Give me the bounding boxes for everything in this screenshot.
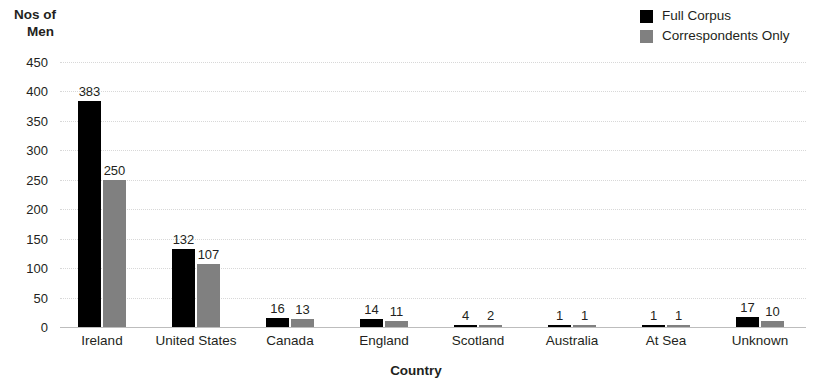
legend-label: Correspondents Only <box>662 29 790 43</box>
bar-value-label: 10 <box>755 305 790 318</box>
bar-value-label: 11 <box>379 305 414 318</box>
legend-item-1[interactable]: Full Corpus <box>640 6 790 26</box>
y-tick-label: 200 <box>0 203 48 216</box>
bar-unknown-full-corpus[interactable] <box>736 317 759 327</box>
gridline <box>60 180 806 182</box>
bar-value-label: 107 <box>191 248 226 261</box>
legend-item-2[interactable]: Correspondents Only <box>640 26 790 46</box>
bar-value-label: 1 <box>567 309 602 322</box>
x-axis-title: Country <box>0 363 816 378</box>
y-tick-label: 400 <box>0 85 48 98</box>
y-axis-title-line-2: Men <box>14 23 84 40</box>
y-tick-label: 50 <box>0 292 48 305</box>
y-axis-title: Nos of Men <box>14 6 84 40</box>
bar-ireland-correspondents-only[interactable] <box>103 180 126 327</box>
bar-value-label: 2 <box>473 309 508 322</box>
y-tick-label: 450 <box>0 56 48 69</box>
bar-england-full-corpus[interactable] <box>360 319 383 327</box>
x-tick-label-unknown: Unknown <box>690 333 816 349</box>
bar-united-states-correspondents-only[interactable] <box>197 264 220 327</box>
bar-value-label: 1 <box>661 309 696 322</box>
bar-value-label: 132 <box>166 233 201 246</box>
y-tick-label: 300 <box>0 144 48 157</box>
y-tick-label: 350 <box>0 115 48 128</box>
y-axis-title-line-1: Nos of <box>14 6 84 23</box>
bar-chart: Nos of Men Full CorpusCorrespondents Onl… <box>0 0 816 390</box>
gridline <box>60 150 806 152</box>
y-tick-label: 250 <box>0 174 48 187</box>
chart-legend: Full CorpusCorrespondents Only <box>640 6 790 46</box>
plot-area: 383250132107161314114211111710 <box>60 62 806 327</box>
bar-value-label: 383 <box>72 85 107 98</box>
bar-value-label: 250 <box>97 164 132 177</box>
gridline <box>60 91 806 93</box>
x-axis-title-text: Country <box>390 363 442 378</box>
gridline <box>60 62 806 64</box>
y-tick-label: 150 <box>0 233 48 246</box>
bar-value-label: 13 <box>285 303 320 316</box>
gridline <box>60 121 806 123</box>
bar-canada-correspondents-only[interactable] <box>291 319 314 327</box>
x-axis-line <box>60 327 806 328</box>
legend-swatch-icon <box>640 30 653 43</box>
legend-swatch-icon <box>640 10 653 23</box>
legend-label: Full Corpus <box>662 9 731 23</box>
gridline <box>60 209 806 211</box>
bar-canada-full-corpus[interactable] <box>266 318 289 327</box>
y-tick-label: 100 <box>0 262 48 275</box>
bar-ireland-full-corpus[interactable] <box>78 101 101 327</box>
